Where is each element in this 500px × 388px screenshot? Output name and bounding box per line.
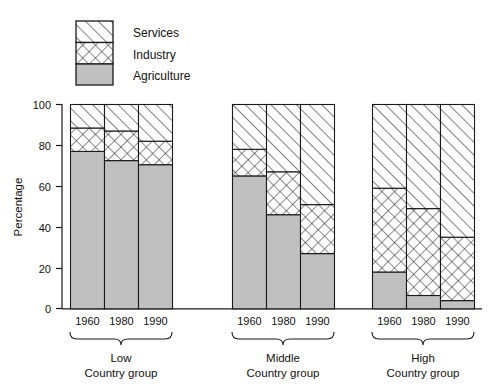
group-brace-low <box>70 332 172 345</box>
legend-label-services: Services <box>133 26 179 40</box>
segment-industry[interactable] <box>139 141 173 165</box>
segment-services[interactable] <box>139 105 173 142</box>
y-tick-label-100: 100 <box>33 99 51 111</box>
bar-group-low: 1960 1980 1990 Low Country group <box>70 105 173 380</box>
y-tick-label-40: 40 <box>39 222 51 234</box>
segment-industry[interactable] <box>407 209 441 296</box>
chart-legend: Services Industry Agriculture <box>76 21 191 85</box>
group-label-middle-name: Middle <box>266 352 300 364</box>
group-brace-high <box>372 332 474 345</box>
stacked-bar-chart: Services Industry Agriculture 100 80 <box>0 0 500 388</box>
x-tick-label-1990: 1990 <box>305 315 329 327</box>
bar-middle-1960[interactable] <box>233 105 267 309</box>
y-tick-label-80: 80 <box>39 140 51 152</box>
bar-group-middle: 1960 1980 1990 Middle Country group <box>232 105 335 380</box>
segment-agriculture[interactable] <box>441 301 475 309</box>
y-tick-label-0: 0 <box>45 303 51 315</box>
x-tick-label-1960: 1960 <box>237 315 261 327</box>
group-label-high-caption: Country group <box>387 367 460 379</box>
segment-industry[interactable] <box>373 188 407 272</box>
y-axis-ticks <box>56 105 62 309</box>
segment-agriculture[interactable] <box>139 165 173 309</box>
bar-middle-1990[interactable] <box>301 105 335 309</box>
group-label-high-name: High <box>411 352 435 364</box>
segment-agriculture[interactable] <box>267 215 301 309</box>
y-axis: 100 80 60 40 20 0 Percentage <box>12 99 62 315</box>
bar-high-1990[interactable] <box>441 105 475 309</box>
legend-swatch-industry <box>76 43 113 65</box>
segment-agriculture[interactable] <box>407 296 441 309</box>
segment-industry[interactable] <box>441 237 475 300</box>
bar-low-1980[interactable] <box>105 105 139 309</box>
group-label-low-caption: Country group <box>85 367 158 379</box>
bar-high-1980[interactable] <box>407 105 441 309</box>
segment-services[interactable] <box>407 105 441 209</box>
legend-label-agriculture: Agriculture <box>133 69 191 83</box>
segment-agriculture[interactable] <box>301 254 335 309</box>
bar-low-1990[interactable] <box>139 105 173 309</box>
segment-industry[interactable] <box>267 172 301 215</box>
x-tick-label-1960: 1960 <box>75 315 99 327</box>
segment-agriculture[interactable] <box>233 176 267 309</box>
x-tick-label-1980: 1980 <box>271 315 295 327</box>
bar-group-high: 1960 1980 1990 High Country group <box>372 105 475 380</box>
segment-industry[interactable] <box>233 149 267 176</box>
segment-agriculture[interactable] <box>105 161 139 309</box>
group-label-middle-caption: Country group <box>247 367 320 379</box>
x-tick-label-1980: 1980 <box>411 315 435 327</box>
bar-high-1960[interactable] <box>373 105 407 309</box>
segment-industry[interactable] <box>301 205 335 254</box>
x-tick-label-1990: 1990 <box>143 315 167 327</box>
y-tick-label-20: 20 <box>39 263 51 275</box>
segment-industry[interactable] <box>71 128 105 151</box>
segment-agriculture[interactable] <box>373 272 407 309</box>
segment-services[interactable] <box>441 105 475 238</box>
legend-label-industry: Industry <box>133 48 176 62</box>
y-axis-title: Percentage <box>12 178 24 237</box>
legend-swatch-agriculture <box>76 64 113 85</box>
x-tick-label-1980: 1980 <box>109 315 133 327</box>
segment-services[interactable] <box>71 105 105 129</box>
x-tick-label-1990: 1990 <box>445 315 469 327</box>
x-tick-label-1960: 1960 <box>377 315 401 327</box>
segment-services[interactable] <box>301 105 335 205</box>
segment-services[interactable] <box>233 105 267 150</box>
segment-industry[interactable] <box>105 131 139 161</box>
segment-services[interactable] <box>267 105 301 172</box>
bar-low-1960[interactable] <box>71 105 105 309</box>
y-tick-label-60: 60 <box>39 181 51 193</box>
segment-services[interactable] <box>105 105 139 132</box>
chart-container: Services Industry Agriculture 100 80 <box>0 0 500 388</box>
legend-swatch-services <box>76 21 113 43</box>
segment-services[interactable] <box>373 105 407 189</box>
group-brace-middle <box>232 332 334 345</box>
group-label-low-name: Low <box>110 352 132 364</box>
segment-agriculture[interactable] <box>71 151 105 308</box>
bar-middle-1980[interactable] <box>267 105 301 309</box>
